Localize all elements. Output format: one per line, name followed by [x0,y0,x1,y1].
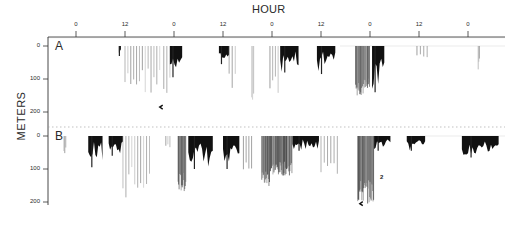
x-tick-label: 12 [220,21,227,27]
dive-bout [372,46,384,89]
x-tick-label: 0 [368,21,371,27]
x-tick-label: 12 [122,21,129,27]
dive-bout [462,136,499,155]
dive-bout [292,136,319,150]
plot-area [0,0,510,226]
x-tick-label: 0 [74,21,77,27]
arrow-marker [160,105,163,109]
y-tick-label: 200 [16,108,40,114]
dive-bout [280,46,298,72]
y-tick-label: 100 [16,165,40,171]
y-tick-label: 100 [16,75,40,81]
dive-bout [317,46,335,71]
annotation-2: 2 [380,174,383,180]
x-tick-label: 0 [270,21,273,27]
panel-b-label: B [55,129,63,143]
arrow-marker [360,202,363,206]
x-tick-label: 12 [416,21,423,27]
dive-bout [374,136,390,149]
x-tick-label: 0 [172,21,175,27]
dive-bout [109,136,123,153]
y-tick-label: 200 [16,198,40,204]
dive-depth-chart: HOUR METERS A B 0120120120120 0100200010… [0,0,510,226]
x-tick-label: 12 [318,21,325,27]
x-axis-title: HOUR [252,3,286,15]
dive-bout [223,136,239,161]
dive-bout [170,46,182,67]
y-tick-label: 0 [16,42,40,48]
panel-b [64,136,499,206]
panel-a-label: A [55,39,63,53]
dive-bout [188,136,213,166]
panel-a [119,46,480,109]
y-tick-label: 0 [16,132,40,138]
x-tick-label: 0 [466,21,469,27]
dive-bout [88,136,102,160]
dive-bout [407,136,425,150]
dive-bout [219,46,229,58]
